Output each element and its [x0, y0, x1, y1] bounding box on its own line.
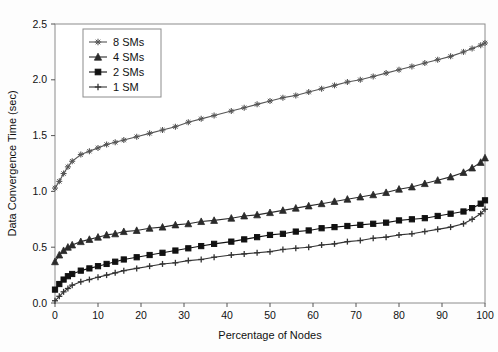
x-axis-tick-label: 80 [393, 309, 405, 321]
y-axis-tick-label: 2.0 [32, 73, 47, 85]
data-point-marker [121, 257, 126, 262]
data-point-marker [70, 271, 75, 276]
data-point-marker [52, 185, 58, 191]
data-point-marker [409, 217, 414, 222]
data-point-marker [280, 231, 285, 236]
data-point-marker [95, 145, 101, 151]
data-point-marker [306, 228, 311, 233]
x-axis-tick-label: 0 [52, 309, 58, 321]
x-axis-tick-label: 20 [135, 309, 147, 321]
data-point-marker [241, 105, 247, 111]
data-point-marker [172, 124, 178, 130]
data-point-marker [383, 70, 389, 76]
x-axis-tick-label: 90 [436, 309, 448, 321]
data-point-marker [384, 220, 389, 225]
data-point-marker [160, 250, 165, 255]
data-point-marker [435, 213, 440, 218]
data-point-marker [121, 137, 127, 143]
data-point-marker [396, 218, 401, 223]
data-point-marker [448, 211, 453, 216]
data-point-marker [95, 69, 101, 75]
x-axis-tick-label: 60 [307, 309, 319, 321]
data-point-marker [147, 130, 153, 136]
data-point-marker [211, 113, 217, 119]
y-axis-tick-label: 2.5 [32, 18, 47, 30]
data-point-marker [134, 134, 140, 140]
legend-item-label: 8 SMs [113, 36, 145, 48]
legend-item-label: 1 SM [113, 81, 139, 93]
data-point-marker [228, 108, 234, 114]
y-axis-tick-label: 0.5 [32, 241, 47, 253]
legend: 8 SMs4 SMs2 SMs1 SM [83, 29, 161, 97]
data-point-marker [65, 164, 71, 170]
data-point-marker [61, 171, 67, 177]
y-axis-title: Data Convergence Time (sec) [6, 90, 18, 236]
data-point-marker [95, 39, 101, 45]
legend-item-label: 2 SMs [113, 66, 145, 78]
data-point-marker [255, 235, 260, 240]
data-point-marker [52, 287, 57, 292]
data-point-marker [280, 95, 286, 101]
x-axis-tick-label: 50 [264, 309, 276, 321]
data-point-marker [112, 139, 118, 145]
data-point-marker [293, 92, 299, 98]
x-axis-tick-label: 70 [350, 309, 362, 321]
data-point-marker [422, 60, 428, 66]
data-point-marker [78, 268, 83, 273]
data-point-marker [160, 127, 166, 133]
data-point-marker [185, 119, 191, 125]
data-point-marker [134, 255, 139, 260]
data-point-marker [357, 77, 363, 83]
data-point-marker [173, 248, 178, 253]
data-point-marker [482, 40, 488, 46]
data-point-marker [344, 79, 350, 85]
data-point-marker [104, 261, 109, 266]
data-point-marker [370, 73, 376, 79]
data-point-marker [186, 246, 191, 251]
y-axis-tick-label: 0.0 [32, 297, 47, 309]
data-point-marker [470, 206, 475, 211]
data-point-marker [104, 142, 110, 148]
data-point-marker [319, 86, 325, 92]
data-point-marker [409, 63, 415, 69]
legend-item-label: 4 SMs [113, 51, 145, 63]
data-point-marker [358, 222, 363, 227]
data-point-marker [448, 53, 454, 59]
data-point-marker [469, 46, 475, 52]
data-point-marker [345, 223, 350, 228]
data-point-marker [86, 148, 92, 154]
y-axis-tick-label: 1.5 [32, 129, 47, 141]
chart-canvas: 0.00.51.01.52.02.50102030405060708090100… [0, 0, 498, 352]
data-point-marker [212, 241, 217, 246]
data-point-marker [319, 226, 324, 231]
data-point-marker [56, 178, 62, 184]
y-axis-tick-label: 1.0 [32, 185, 47, 197]
data-point-marker [95, 264, 100, 269]
data-point-marker [69, 158, 75, 164]
data-point-marker [113, 259, 118, 264]
data-point-marker [267, 98, 273, 104]
data-point-marker [332, 82, 338, 88]
data-point-marker [229, 239, 234, 244]
data-point-marker [267, 232, 272, 237]
data-point-marker [332, 225, 337, 230]
data-point-marker [461, 209, 466, 214]
x-axis-tick-label: 30 [178, 309, 190, 321]
data-point-marker [461, 49, 467, 55]
data-point-marker [482, 198, 487, 203]
data-point-marker [87, 266, 92, 271]
data-point-marker [78, 152, 84, 158]
figure-chart-data-convergence-time: 0.00.51.01.52.02.50102030405060708090100… [0, 0, 498, 352]
x-axis-tick-label: 10 [92, 309, 104, 321]
x-axis-tick-label: 100 [476, 309, 494, 321]
data-point-marker [396, 67, 402, 73]
x-axis-tick-label: 40 [221, 309, 233, 321]
data-point-marker [254, 101, 260, 107]
data-point-marker [422, 216, 427, 221]
data-point-marker [198, 116, 204, 122]
data-point-marker [371, 221, 376, 226]
data-point-marker [147, 252, 152, 257]
data-point-marker [293, 229, 298, 234]
data-point-marker [306, 89, 312, 95]
data-point-marker [435, 57, 441, 63]
